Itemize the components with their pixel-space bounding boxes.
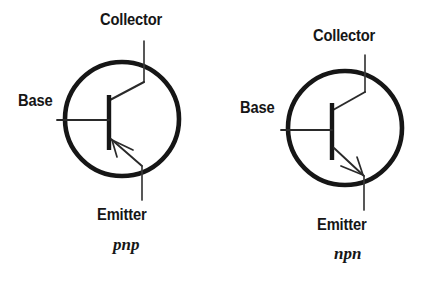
pnp-symbol-group xyxy=(57,41,179,200)
npn-collector-diagonal xyxy=(333,92,365,110)
npn-collector-label: Collector xyxy=(313,28,375,44)
pnp-emitter-label: Emitter xyxy=(97,207,146,223)
transistor-symbols-figure: Collector Base Emitter pnp Collector Bas… xyxy=(0,0,426,289)
npn-base-label: Base xyxy=(240,100,274,116)
npn-symbol-group xyxy=(281,55,402,210)
npn-emitter-label: Emitter xyxy=(317,217,366,233)
pnp-envelope-circle xyxy=(65,62,179,176)
pnp-base-label: Base xyxy=(18,93,52,109)
npn-type-label: npn xyxy=(334,245,361,262)
pnp-collector-diagonal xyxy=(110,82,144,100)
pnp-collector-label: Collector xyxy=(100,12,162,28)
pnp-type-label: pnp xyxy=(113,236,139,253)
